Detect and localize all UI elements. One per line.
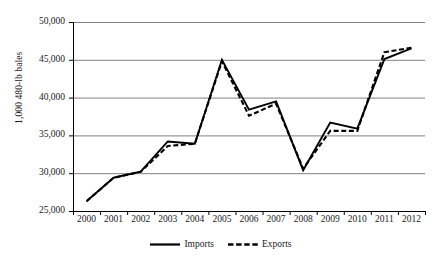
line-chart: 1,000 480-lb bales 25,00030,00035,00040,… [0,0,442,270]
chart-legend: ImportsExports [0,240,442,250]
legend-swatch-dashed [228,240,258,249]
legend-label: Imports [184,240,214,250]
legend-swatch-solid [150,240,180,249]
legend-entry-exports: Exports [228,240,292,250]
y-axis-tick-label: 50,000 [18,17,65,27]
x-axis-tick-label: 2012 [391,215,431,225]
x-axis-tick-labels: 2000200120022003200420052006200720082009… [0,215,442,231]
y-axis-tick-label: 45,000 [18,55,65,65]
y-axis-tick-label: 30,000 [18,168,65,178]
legend-label: Exports [262,240,292,250]
y-axis-tick-label: 35,000 [18,131,65,141]
y-axis-tick-label: 40,000 [18,93,65,103]
series-line-exports [87,48,412,201]
series-line-imports [87,48,412,201]
legend-entry-imports: Imports [150,240,214,250]
